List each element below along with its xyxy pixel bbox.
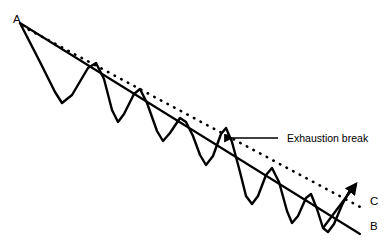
diagram-canvas: A B C Exhaustion break [0,0,392,240]
diagram-background [0,0,392,240]
label-exhaustion-break: Exhaustion break [287,132,369,144]
label-trendline-b: B [370,220,378,232]
label-apex-a: A [13,13,21,25]
trendline-diagram: A B C Exhaustion break [0,0,392,240]
label-parallel-c: C [370,195,378,207]
